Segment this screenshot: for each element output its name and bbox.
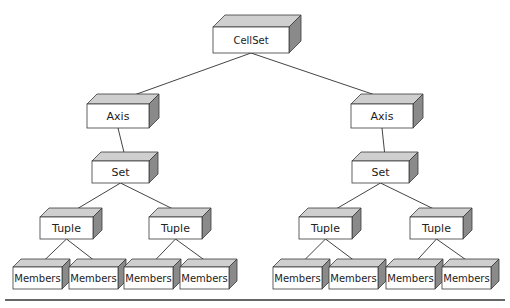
node-set-left[interactable]: Set bbox=[92, 152, 158, 183]
node-members-2[interactable]: Members bbox=[69, 259, 126, 289]
node-label: Tuple bbox=[51, 222, 81, 235]
node-label: CellSet bbox=[233, 35, 268, 46]
node-members-4[interactable]: Members bbox=[180, 259, 237, 289]
nodes: CellSetAxisAxisSetSetTupleTupleTupleTupl… bbox=[13, 15, 499, 289]
node-label: Members bbox=[330, 273, 376, 284]
node-label: Members bbox=[274, 273, 320, 284]
node-tuple-1[interactable]: Tuple bbox=[40, 208, 102, 239]
box-top-face bbox=[442, 259, 499, 267]
node-members-8[interactable]: Members bbox=[442, 259, 499, 289]
node-label: Members bbox=[70, 273, 116, 284]
box-top-face bbox=[92, 152, 158, 161]
node-label: Axis bbox=[107, 110, 130, 123]
edge-cellset-to-axis-left bbox=[123, 53, 251, 99]
box-top-face bbox=[386, 259, 443, 267]
edge-cellset-to-axis-right bbox=[251, 53, 387, 99]
node-label: Tuple bbox=[421, 222, 451, 235]
box-top-face bbox=[352, 152, 418, 161]
box-top-face bbox=[13, 259, 70, 267]
box-top-face bbox=[40, 208, 102, 217]
node-tuple-4[interactable]: Tuple bbox=[410, 208, 472, 239]
node-cellset[interactable]: CellSet bbox=[213, 15, 301, 53]
node-label: Members bbox=[14, 273, 60, 284]
node-members-5[interactable]: Members bbox=[273, 259, 330, 289]
box-top-face bbox=[87, 94, 159, 104]
node-label: Axis bbox=[371, 110, 394, 123]
cellset-hierarchy-diagram: CellSetAxisAxisSetSetTupleTupleTupleTupl… bbox=[0, 0, 510, 308]
node-label: Members bbox=[387, 273, 433, 284]
box-top-face bbox=[299, 208, 361, 217]
box-top-face bbox=[329, 259, 386, 267]
box-top-face bbox=[213, 15, 301, 27]
node-axis-right[interactable]: Axis bbox=[351, 94, 423, 128]
box-top-face bbox=[69, 259, 126, 267]
box-top-face bbox=[149, 208, 211, 217]
node-label: Set bbox=[111, 166, 130, 179]
node-label: Set bbox=[371, 166, 390, 179]
node-tuple-3[interactable]: Tuple bbox=[299, 208, 361, 239]
node-set-right[interactable]: Set bbox=[352, 152, 418, 183]
node-label: Members bbox=[181, 273, 227, 284]
node-label: Tuple bbox=[160, 222, 190, 235]
box-top-face bbox=[124, 259, 181, 267]
node-axis-left[interactable]: Axis bbox=[87, 94, 159, 128]
box-top-face bbox=[410, 208, 472, 217]
node-members-3[interactable]: Members bbox=[124, 259, 181, 289]
node-label: Members bbox=[125, 273, 171, 284]
box-top-face bbox=[273, 259, 330, 267]
node-members-6[interactable]: Members bbox=[329, 259, 386, 289]
node-members-1[interactable]: Members bbox=[13, 259, 70, 289]
box-top-face bbox=[180, 259, 237, 267]
node-label: Tuple bbox=[310, 222, 340, 235]
node-members-7[interactable]: Members bbox=[386, 259, 443, 289]
node-tuple-2[interactable]: Tuple bbox=[149, 208, 211, 239]
box-top-face bbox=[351, 94, 423, 104]
node-label: Members bbox=[443, 273, 489, 284]
